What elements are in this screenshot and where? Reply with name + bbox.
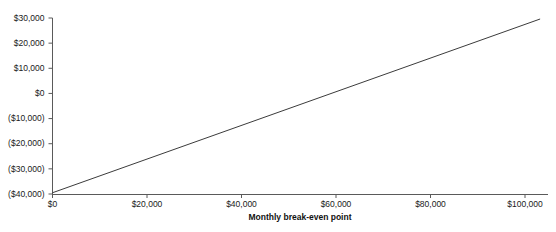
y-axis-tick-label: $10,000 [14,63,45,73]
y-axis-tick-label: $30,000 [14,13,45,23]
y-axis-tick-group [49,18,53,194]
x-axis-tick-label: $100,000 [507,199,543,209]
y-axis-tick-label: $20,000 [14,38,45,48]
x-axis-tick-label: $80,000 [415,199,446,209]
x-axis-title: Monthly break-even point [249,212,352,222]
x-axis-tick-label: $20,000 [132,199,163,209]
y-axis-labels: $30,000$20,000$10,000$0($10,000)($20,000… [8,13,45,199]
y-axis-tick-label: ($30,000) [8,164,45,174]
x-axis-tick-label: $40,000 [226,199,257,209]
chart-container: $30,000$20,000$10,000$0($10,000)($20,000… [0,0,556,232]
data-line [53,19,541,193]
x-axis-tick-label: $60,000 [321,199,352,209]
y-axis-tick-label: ($40,000) [8,189,45,199]
y-axis-tick-label: ($10,000) [8,113,45,123]
line-chart: $30,000$20,000$10,000$0($10,000)($20,000… [0,0,556,232]
x-axis-labels: $0$20,000$40,000$60,000$80,000$100,000 [48,199,543,209]
y-axis-tick-label: $0 [35,88,45,98]
x-axis-tick-label: $0 [48,199,58,209]
y-axis-tick-label: ($20,000) [8,138,45,148]
data-series-group [53,19,541,193]
